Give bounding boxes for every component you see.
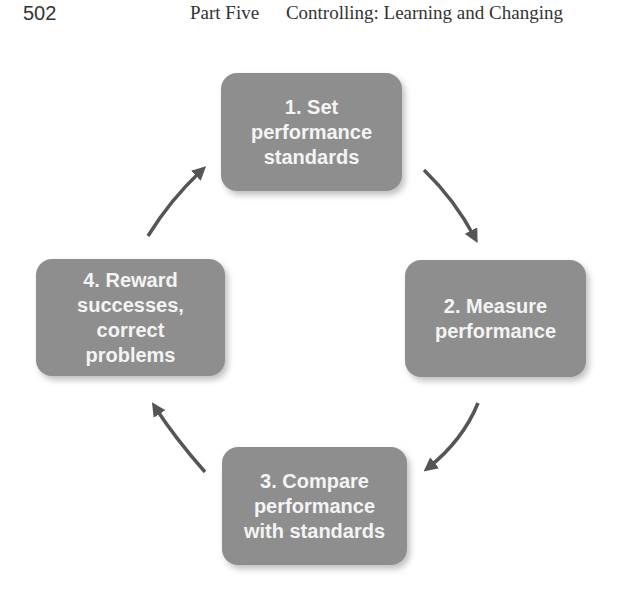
- cycle-arrows: [0, 0, 635, 605]
- arrow-1-to-2-icon: [424, 170, 475, 238]
- arrow-4-to-1-icon: [148, 170, 202, 236]
- arrow-3-to-4-icon: [155, 407, 205, 472]
- arrow-2-to-3-icon: [428, 403, 478, 468]
